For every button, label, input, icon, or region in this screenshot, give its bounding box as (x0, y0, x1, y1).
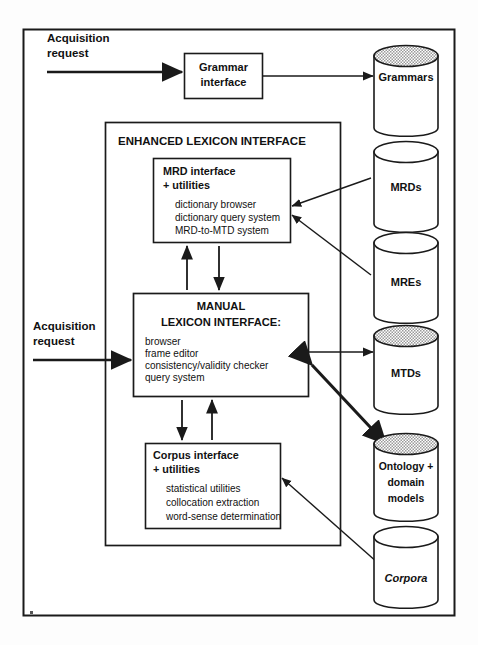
architecture-diagram: Acquisition request Grammar interface EN… (0, 0, 478, 645)
corpus-item-2: word-sense determination (165, 511, 281, 522)
cylinder-grammars-top (374, 46, 438, 67)
diagram-canvas: Acquisition request Grammar interface EN… (0, 0, 478, 645)
acquisition-request-top-line2: request (47, 47, 89, 59)
mrd-item-1: dictionary query system (175, 212, 280, 223)
mrd-interface-heading2: + utilities (163, 179, 210, 191)
enhanced-lexicon-interface-title: ENHANCED LEXICON INTERFACE (118, 135, 306, 147)
mrd-interface-heading1: MRD interface (163, 165, 236, 177)
cylinder-mrds: MRDs (374, 142, 438, 233)
corner-marker (30, 611, 33, 614)
corpus-item-0: statistical utilities (166, 483, 240, 494)
cylinder-ontology-label-line3: models (388, 493, 425, 504)
corpus-item-1: collocation extraction (166, 497, 259, 508)
manual-item-2: consistency/validity checker (145, 360, 269, 371)
cylinder-grammars-label: Grammars (378, 71, 433, 83)
grammar-interface-line2: interface (201, 76, 247, 88)
cylinder-grammars: Grammars (374, 46, 438, 137)
cylinder-mres-label: MREs (391, 276, 422, 288)
corpus-heading1: Corpus interface (153, 449, 239, 461)
cylinder-ontology: Ontology + domain models (374, 434, 438, 522)
acquisition-request-mid-line1: Acquisition (33, 320, 96, 332)
cylinder-mres: MREs (374, 233, 438, 324)
cylinder-mtds-label: MTDs (391, 367, 421, 379)
cylinder-corpora: Corpora (374, 527, 438, 609)
mrd-item-2: MRD-to-MTD system (175, 225, 269, 236)
manual-heading1: MANUAL (197, 300, 246, 312)
cylinder-ontology-label-line2: domain (388, 477, 425, 488)
cylinder-mres-top (374, 233, 438, 254)
manual-heading2: LEXICON INTERFACE: (161, 316, 281, 328)
acquisition-request-top-line1: Acquisition (47, 32, 110, 44)
cylinder-corpora-top (374, 527, 438, 548)
acquisition-request-mid-line2: request (33, 335, 75, 347)
cylinder-mtds-top (374, 326, 438, 347)
cylinder-mrds-label: MRDs (390, 181, 421, 193)
cylinder-mtds: MTDs (374, 326, 438, 415)
manual-item-3: query system (145, 372, 204, 383)
manual-item-0: browser (145, 336, 181, 347)
cylinder-ontology-label-line1: Ontology + (379, 461, 434, 472)
cylinder-mrds-top (374, 142, 438, 163)
mrd-item-0: dictionary browser (175, 199, 257, 210)
cylinder-corpora-label: Corpora (385, 572, 428, 584)
cylinder-ontology-top (374, 434, 438, 455)
grammar-interface-line1: Grammar (199, 61, 249, 73)
corpus-heading2: + utilities (153, 463, 200, 475)
manual-item-1: frame editor (145, 348, 199, 359)
